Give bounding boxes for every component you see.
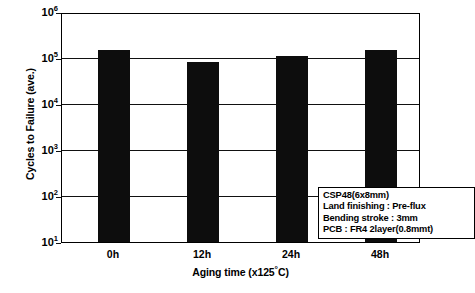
y-tick-exponent: 1 (54, 234, 58, 243)
y-tick-mantissa: 10 (42, 52, 54, 64)
bar-24h (276, 56, 308, 242)
y-tick-mantissa: 10 (42, 98, 54, 110)
y-tick-label-1e4: 104 (16, 99, 58, 110)
plot-area: CSP48(6x8mm) Land finishing : Pre-flux B… (61, 13, 420, 243)
legend-line-sample: CSP48(6x8mm) (323, 190, 471, 201)
y-tick-exponent: 4 (54, 96, 58, 105)
bar-12h (187, 62, 219, 242)
y-tick-label-1e2: 102 (16, 191, 58, 202)
y-tick-label-1e5: 105 (16, 53, 58, 64)
y-tick-mantissa: 10 (42, 236, 54, 248)
y-tick-label-1e1: 101 (16, 237, 58, 248)
y-tick-mantissa: 10 (42, 6, 54, 18)
x-axis-title: Aging time (x125°C) (61, 266, 420, 278)
y-tick-mantissa: 10 (42, 144, 54, 156)
x-tick-label-12h: 12h (172, 248, 232, 260)
x-axis-title-prefix: Aging time (x125 (192, 266, 274, 278)
legend-line-land-finishing: Land finishing : Pre-flux (323, 201, 471, 212)
y-tick-exponent: 5 (54, 50, 58, 59)
y-tick-exponent: 3 (54, 142, 58, 151)
y-tick-mantissa: 10 (42, 190, 54, 202)
x-tick-label-0h: 0h (83, 248, 143, 260)
y-tick-label-1e6: 106 (16, 7, 58, 18)
annotation-legend-box: CSP48(6x8mm) Land finishing : Pre-flux B… (318, 187, 475, 239)
legend-line-pcb: PCB : FR4 2layer(0.8mmt) (323, 224, 471, 235)
x-tick-label-48h: 48h (350, 248, 410, 260)
bar-0h (98, 50, 130, 242)
y-tick-exponent: 2 (54, 188, 58, 197)
legend-line-bending-stroke: Bending stroke : 3mm (323, 213, 471, 224)
x-axis-tick-labels: 0h 12h 24h 48h (61, 248, 420, 264)
y-tick-exponent: 6 (54, 4, 58, 13)
y-tick-label-1e3: 103 (16, 145, 58, 156)
y-axis-tick-labels: 106 105 104 103 102 101 (12, 0, 58, 293)
y-tick-mark (56, 243, 61, 244)
x-axis-title-suffix: C) (278, 266, 289, 278)
x-tick-label-24h: 24h (261, 248, 321, 260)
